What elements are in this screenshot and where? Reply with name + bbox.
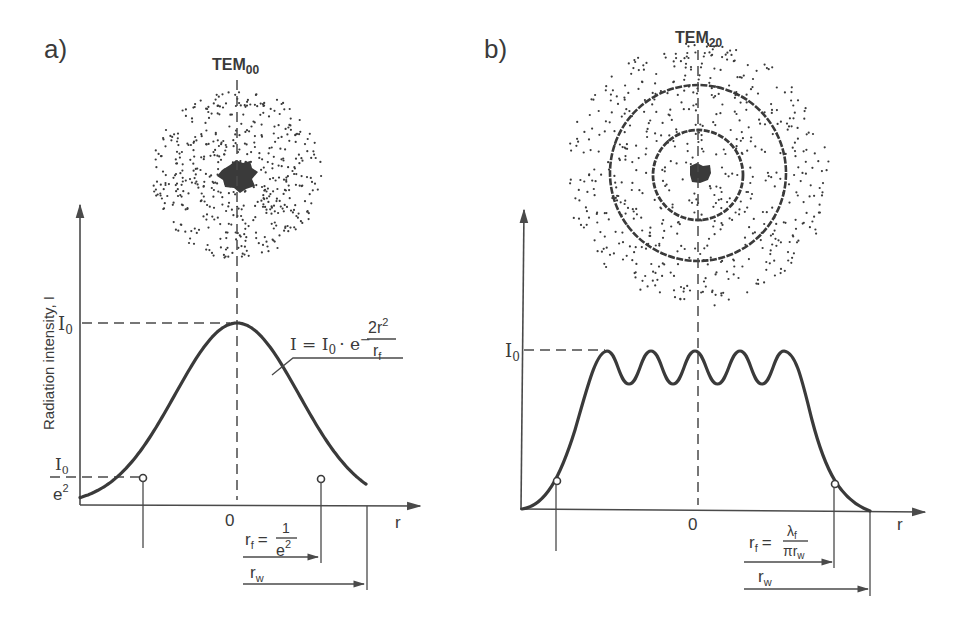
- svg-text:2r2: 2r2: [368, 316, 388, 336]
- svg-text:I = I0· e−: I = I0· e−: [290, 332, 371, 357]
- svg-text:1: 1: [282, 520, 290, 536]
- panel-a-label: a): [44, 34, 67, 64]
- svg-text:λf: λf: [787, 523, 797, 541]
- panel-a-x-axis-label: r: [395, 513, 401, 532]
- panel-b-left-marker: [554, 478, 561, 485]
- gaussian-formula: I = I0· e− 2r2 rf: [290, 316, 396, 362]
- panel-a-i0e2-num: I0: [55, 454, 69, 477]
- panel-a-origin-label: 0: [225, 511, 234, 530]
- svg-text:rf: rf: [373, 342, 382, 362]
- panel-b-rf-definition: rf= λf πrw: [749, 523, 808, 561]
- panel-b-x-axis-label: r: [897, 515, 903, 534]
- panel-a-i0e2-den: e2: [53, 482, 69, 504]
- panel-a-rw-label: rw: [250, 563, 264, 584]
- panel-b: b) TEM20 I0 0 r rf= λf πrw rw: [484, 29, 925, 596]
- panel-a-y-axis-label: Radiation intensity, I: [40, 296, 57, 430]
- svg-text:e2: e2: [276, 538, 291, 559]
- panel-a: a) TEM00 Radiation intensity, I I0 I0 e2…: [40, 34, 420, 590]
- figure-canvas: a) TEM00 Radiation intensity, I I0 I0 e2…: [0, 0, 956, 623]
- panel-b-y-axis: [521, 210, 524, 509]
- panel-a-right-marker: [318, 476, 325, 483]
- svg-text:rf=: rf=: [749, 533, 772, 554]
- panel-b-rw-label: rw: [758, 567, 772, 588]
- panel-b-origin-label: 0: [688, 515, 697, 534]
- formula-leader-line: [272, 358, 403, 375]
- tem20-core-spot: [690, 163, 711, 183]
- panel-a-rf-definition: rf= 1 e2: [245, 520, 297, 559]
- panel-b-i0-label: I0: [505, 340, 520, 364]
- panel-a-left-marker: [140, 475, 147, 482]
- panel-b-right-marker: [832, 481, 839, 488]
- multimode-intensity-curve: [522, 351, 870, 511]
- panel-b-label: b): [484, 34, 507, 64]
- svg-text:rf=: rf=: [245, 530, 268, 551]
- panel-a-mode-title: TEM00: [212, 56, 259, 77]
- panel-b-mode-title: TEM20: [675, 29, 722, 50]
- panel-a-i0-label: I0: [58, 313, 73, 337]
- panel-a-x-axis: [80, 505, 420, 506]
- svg-text:πrw: πrw: [783, 543, 805, 561]
